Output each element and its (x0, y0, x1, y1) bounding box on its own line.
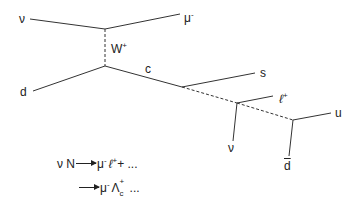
muon-label: μ- (184, 9, 194, 24)
lepton-charge: + (283, 91, 288, 100)
c-quark-line (105, 66, 182, 87)
reaction-line-1: ν Nμ-ℓ++ ... (57, 154, 138, 171)
muon-symbol: μ (184, 11, 191, 25)
reaction-1-tail: + ... (117, 157, 137, 171)
arrow-icon (76, 163, 96, 164)
muon-charge: - (191, 10, 194, 19)
w-charge: + (122, 41, 127, 50)
nu-outgoing-label: ν (228, 142, 234, 154)
reaction-2-lambda: Λ (112, 181, 120, 195)
u-quark-label: u (335, 107, 342, 119)
muon-outgoing-line (105, 14, 180, 29)
u-quark-line (293, 113, 331, 120)
s-quark-label: s (260, 67, 266, 79)
w-boson-label: W+ (111, 40, 127, 55)
c-quark-label: c (145, 63, 151, 75)
lepton-label: ℓ+ (279, 90, 288, 105)
w-decay-propagator-2 (237, 103, 293, 120)
reaction-2-tail: ... (130, 181, 140, 195)
w-decay-propagator-1 (182, 87, 237, 103)
s-quark-line (182, 73, 255, 87)
feynman-diagram-lines (0, 0, 358, 199)
reaction-1-muon-charge: - (104, 156, 107, 165)
w-symbol: W (111, 42, 122, 56)
dbar-quark-line (289, 120, 293, 156)
reaction-1-muon: μ (97, 157, 104, 171)
reaction-2-lambda-flavor: c (120, 187, 124, 199)
reaction-line-2: μ-Λ+c... (78, 178, 140, 195)
reaction-lhs: ν N (57, 157, 75, 171)
nu-incoming-line (30, 19, 105, 29)
lepton-line (237, 96, 273, 103)
dbar-quark-label: d (284, 160, 291, 172)
nu-outgoing-line (233, 103, 237, 141)
arrow-icon (79, 187, 99, 188)
d-quark-label: d (20, 86, 27, 98)
reaction-2-muon: μ (100, 181, 107, 195)
nu-incoming-label: ν (19, 13, 25, 25)
reaction-2-muon-charge: - (107, 180, 110, 189)
d-quark-incoming-line (33, 66, 105, 91)
